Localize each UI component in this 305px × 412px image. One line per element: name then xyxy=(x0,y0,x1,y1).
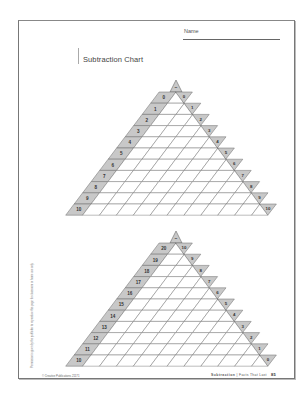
series-subtitle: Facts That Last xyxy=(239,373,267,377)
row-label: 12 xyxy=(93,336,99,341)
row-label: 5 xyxy=(120,151,123,156)
copyright-text: © Creative Publications 21171 xyxy=(42,374,79,378)
triangle-chart-upper: –001122334455667788991010 xyxy=(66,80,277,215)
row-label: 2 xyxy=(146,118,149,123)
operator-symbol: – xyxy=(175,84,178,90)
subtraction-charts: –001122334455667788991010–20101991881771… xyxy=(0,0,305,412)
row-label: 0 xyxy=(163,95,166,100)
column-label: 10 xyxy=(182,245,187,250)
row-label: 17 xyxy=(136,280,142,285)
row-label: 10 xyxy=(76,207,82,212)
row-label: 3 xyxy=(137,129,140,134)
series-label: Subtraction xyxy=(211,373,235,377)
row-label: 14 xyxy=(110,314,116,319)
row-label: 16 xyxy=(127,291,133,296)
row-label: 1 xyxy=(154,107,157,112)
row-label: 20 xyxy=(161,246,167,251)
row-label: 6 xyxy=(112,163,115,168)
row-label: 19 xyxy=(153,258,159,263)
row-label: 9 xyxy=(86,196,89,201)
row-label: 11 xyxy=(85,347,90,352)
permission-note: Permission is given by the publisher to … xyxy=(31,263,34,368)
row-label: 15 xyxy=(119,302,125,307)
operator-symbol: – xyxy=(175,235,178,241)
row-label: 7 xyxy=(103,174,106,179)
footer-series: Subtraction | Facts That Last 85 xyxy=(211,372,276,377)
triangle-chart-lower: –2010199188177166155144133122111100 xyxy=(66,231,277,366)
row-label: 13 xyxy=(102,325,108,330)
row-label: 18 xyxy=(144,269,150,274)
page-number: 85 xyxy=(271,372,276,377)
column-label: 10 xyxy=(266,206,271,211)
row-label: 4 xyxy=(129,140,132,145)
row-label: 8 xyxy=(95,185,98,190)
row-label: 10 xyxy=(76,358,82,363)
